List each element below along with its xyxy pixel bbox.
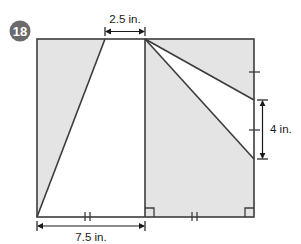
top-dimension-group [105, 27, 145, 36]
problem-number-text: 18 [13, 24, 27, 39]
figure-canvas: 2.5 in. 7.5 in. 4 in. 18 [0, 0, 301, 244]
right-dimension-label: 4 in. [270, 123, 292, 135]
bottom-dimension-label: 7.5 in. [75, 231, 106, 243]
geometry-figure: 2.5 in. 7.5 in. 4 in. 18 [0, 0, 301, 244]
top-dimension-label: 2.5 in. [109, 13, 140, 25]
bottom-dimension-group [37, 221, 145, 231]
